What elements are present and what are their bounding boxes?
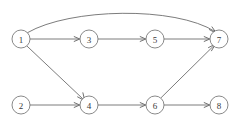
graph-node-4[interactable]: 4: [80, 96, 98, 114]
graph-node-7[interactable]: 7: [210, 30, 228, 48]
edge-layer: [27, 13, 217, 107]
graph-node-8[interactable]: 8: [210, 96, 228, 114]
edge-1-to-7-curved: [28, 13, 217, 33]
graph-node-1[interactable]: 1: [12, 30, 30, 48]
edge-1-to-4: [27, 46, 85, 101]
edge-6-to-7: [161, 44, 215, 98]
edge-5-to-7: [164, 37, 210, 42]
edge-line: [27, 46, 83, 99]
node-layer: 1 2 3 4 5 6: [12, 30, 228, 114]
graph-node-2[interactable]: 2: [12, 96, 30, 114]
graph-node-5[interactable]: 5: [146, 30, 164, 48]
graph-diagram: 1 2 3 4 5 6: [0, 0, 244, 123]
edge-1-to-3: [30, 37, 80, 42]
node-label: 7: [217, 35, 222, 45]
edge-3-to-5: [98, 37, 146, 42]
node-label: 5: [153, 35, 158, 45]
node-label: 3: [87, 35, 92, 45]
edge-6-to-8: [164, 103, 210, 108]
edge-line: [28, 13, 215, 32]
node-label: 1: [19, 35, 24, 45]
graph-canvas: 1 2 3 4 5 6: [0, 0, 244, 123]
edge-4-to-6: [98, 103, 146, 108]
node-label: 4: [87, 101, 92, 111]
node-label: 2: [19, 101, 24, 111]
edge-line: [161, 46, 213, 97]
graph-node-3[interactable]: 3: [80, 30, 98, 48]
edge-2-to-4: [30, 103, 80, 108]
graph-node-6[interactable]: 6: [146, 96, 164, 114]
node-label: 6: [153, 101, 158, 111]
node-label: 8: [217, 101, 222, 111]
